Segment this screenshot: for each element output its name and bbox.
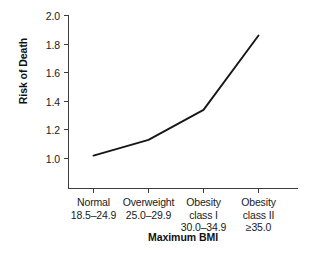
x-category-line: Obesity: [228, 196, 290, 209]
y-axis-title-text: Risk of Death: [17, 38, 29, 104]
y-tick-label: 1.6: [26, 67, 60, 79]
y-axis-title: Risk of Death: [13, 11, 31, 131]
risk-of-death-line-chart: 2.0 1.8 1.6 1.4 1.2 1.0 Normal 18.5–24.9…: [0, 0, 312, 254]
y-tick-label: 1.0: [26, 153, 60, 165]
x-category-line: Normal: [63, 196, 125, 209]
x-category-line: 18.5–24.9: [63, 209, 125, 222]
x-category-line: class I: [173, 209, 235, 222]
x-category-line: class II: [228, 209, 290, 222]
x-tick-marks: [94, 189, 259, 194]
x-category-line: 25.0–29.9: [118, 209, 180, 222]
y-tick-label: 1.8: [26, 39, 60, 51]
x-category-label-normal: Normal 18.5–24.9: [63, 196, 125, 221]
risk-of-death-series-line: [94, 36, 259, 156]
y-tick-marks: [64, 16, 69, 159]
x-category-label-overweight: Overweight 25.0–29.9: [118, 196, 180, 221]
x-category-label-obesity-class-i: Obesity class I 30.0–34.9: [173, 196, 235, 234]
y-tick-label: 2.0: [26, 10, 60, 22]
x-category-label-obesity-class-ii: Obesity class II ≥35.0: [228, 196, 290, 234]
y-tick-label: 1.2: [26, 124, 60, 136]
x-category-line: Obesity: [173, 196, 235, 209]
x-axis-title: Maximum BMI: [68, 231, 298, 243]
x-category-line: Overweight: [118, 196, 180, 209]
y-tick-label: 1.4: [26, 96, 60, 108]
